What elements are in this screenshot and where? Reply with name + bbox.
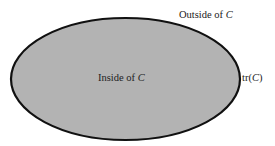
outside-label-var: C — [226, 9, 233, 20]
trace-label-suffix: ) — [259, 72, 263, 83]
inside-label-var: C — [138, 72, 145, 83]
trace-label-prefix: tr( — [242, 72, 252, 83]
inside-label: Inside of C — [98, 72, 145, 83]
trace-label: tr(C) — [242, 72, 262, 83]
outside-label-text: Outside of — [179, 9, 226, 20]
inside-label-text: Inside of — [98, 72, 138, 83]
trace-label-var: C — [252, 72, 259, 83]
outside-label: Outside of C — [179, 9, 233, 20]
